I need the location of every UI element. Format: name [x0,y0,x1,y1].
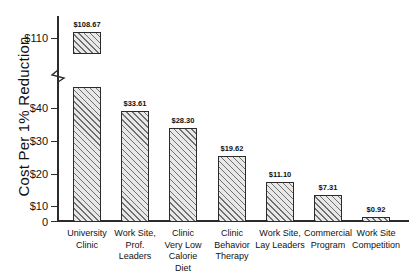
bar-university-clinic [73,87,101,222]
y-tick-label-10: $10 [30,200,48,212]
y-tick-10 [51,206,57,207]
y-tick-0 [51,221,57,222]
y-axis-title: Cost Per 1% Reduction [15,22,32,212]
bar-clinic-behavior-therapy [218,156,246,222]
value-label-clinic-vlcd: $28.30 [172,116,195,125]
y-tick-label-110: $110 [24,32,48,44]
value-label-university-clinic: $108.67 [73,20,100,29]
bar-clinic-vlcd [169,128,197,222]
bar-work-site-competition [362,217,390,222]
category-line: Work Site [337,228,415,240]
value-label-work-site-competition: $0.92 [367,205,386,214]
value-label-commercial-program: $7.31 [319,183,338,192]
y-tick-110 [51,38,57,39]
bar-work-site-lay-leaders [266,182,294,222]
bar-university-clinic-top-segment [73,32,101,54]
value-label-work-site-prof-leaders: $33.61 [124,99,147,108]
y-tick-40 [51,108,57,109]
y-tick-label-30: $30 [30,135,48,147]
category-line: Therapy [193,251,271,263]
category-line: Diet [144,263,222,274]
value-label-clinic-behavior-therapy: $19.62 [221,144,244,153]
y-tick-label-40: $40 [30,102,48,114]
y-tick-label-20: $20 [30,168,48,180]
y-axis-break-icon [50,64,66,84]
plot-area: $110 $40 $30 $20 $10 0 $108.67 Universit… [57,16,409,222]
y-tick-20 [51,174,57,175]
bar-work-site-prof-leaders [121,111,149,222]
y-axis-line [57,16,59,222]
y-tick-30 [51,141,57,142]
bar-commercial-program [314,195,342,222]
y-tick-label-0: 0 [42,216,48,228]
value-label-work-site-lay-leaders: $11.10 [269,170,292,179]
category-label-work-site-competition: Work Site Competition [337,228,415,251]
category-line: Competition [337,240,415,252]
